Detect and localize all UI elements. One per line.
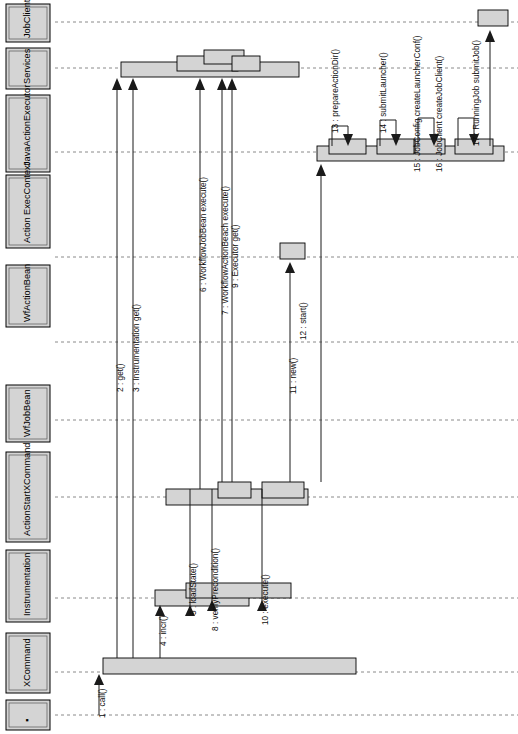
lifeline-label-instrumentation: Instrumentation <box>22 553 32 616</box>
message-label-1: 1 : call() <box>97 688 107 718</box>
message-label-9: 9 : Executor get() <box>230 224 240 288</box>
diagram-svg: 1 : call() 2 : get() 3 : Instrumentation… <box>0 0 518 734</box>
activation-actionexeccontext <box>280 243 305 259</box>
message-17 <box>485 30 495 146</box>
lifeline-head-wfjobbean[interactable]: WfJobBean <box>6 385 50 442</box>
activation-instrumentation-sub <box>186 583 291 598</box>
message-label-4: 4 : incr() <box>158 615 168 646</box>
message-label-12: 12 : start() <box>298 302 308 340</box>
message-labels: 1 : call() 2 : get() 3 : Instrumentation… <box>97 35 481 718</box>
lifeline-label-actionexeccontext: Action ExecContext <box>22 162 32 243</box>
activation-actionstartxcommand-b <box>262 482 304 498</box>
activation-actionstartxcommand-a <box>218 482 251 498</box>
lifeline-label-actionstartxcommand: ActionStartXCommand <box>22 443 32 536</box>
lifeline-label-wfjobbean: WfJobBean <box>22 390 32 438</box>
sequence-diagram-canvas: 1 : call() 2 : get() 3 : Instrumentation… <box>0 0 518 734</box>
message-label-8: 8 : verifyPrecondition() <box>210 548 220 631</box>
message-label-2: 2 : get() <box>115 363 125 392</box>
message-label-11: 11 : new() <box>288 357 298 394</box>
message-label-15: 15 : JobConfig createLauncherConf() <box>412 35 422 172</box>
lifeline-head-actor[interactable]: ▪ <box>6 700 50 730</box>
lifeline-label-javaactionexecutor: JavaActionExecutor <box>22 85 32 166</box>
lifeline-heads: JobClient Services JavaActionExecutor Ac… <box>6 0 50 730</box>
message-label-5: 5 : loadState() <box>188 563 198 615</box>
message-label-3: 3 : Instrumentation get() <box>131 304 141 392</box>
activation-xcommand <box>103 658 356 674</box>
lifeline-head-instrumentation[interactable]: Instrumentation <box>6 550 50 622</box>
lifeline-head-xcommand[interactable]: XCommand <box>6 633 50 693</box>
message-label-10: 10 : execute() <box>260 574 270 625</box>
message-label-6: 6 : WorkflowJobBean execute() <box>198 177 208 292</box>
message-label-17: 17 : RunningJob submitJob() <box>471 40 481 146</box>
lifeline-head-wfactionbean[interactable]: WfActionBean <box>6 264 50 327</box>
lifeline-label-xcommand: XCommand <box>22 638 32 687</box>
activation-jobclient <box>478 10 508 26</box>
message-12 <box>316 164 326 482</box>
lifeline-head-actionstartxcommand[interactable]: ActionStartXCommand <box>6 443 50 542</box>
lifeline-label-services: Services <box>22 48 32 84</box>
lifeline-label-wfactionbean: WfActionBean <box>22 264 32 322</box>
message-label-14: 14 : submitLauncher() <box>378 52 388 133</box>
lifeline-label-actor: ▪ <box>22 719 32 722</box>
lifeline-label-jobclient: JobClient <box>22 0 32 38</box>
lifeline-head-actionexeccontext[interactable]: Action ExecContext <box>6 162 50 248</box>
lifeline-head-javaactionexecutor[interactable]: JavaActionExecutor <box>6 85 50 172</box>
message-label-16: 16 : JobClient createJobClient() <box>434 56 444 172</box>
message-label-13: 13 : prepareActionDir() <box>330 49 340 133</box>
activation-services-c <box>232 56 260 71</box>
lifeline-head-jobclient[interactable]: JobClient <box>6 0 50 42</box>
message-label-7: 7 : WorkflowActionBeach execute() <box>220 186 230 315</box>
lifeline-head-services[interactable]: Services <box>6 48 50 89</box>
